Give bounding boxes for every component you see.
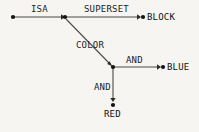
node-dot-red[interactable] [111,103,115,107]
node-label-blue: BLUE [167,63,189,72]
semantic-network-diagram: ISA SUPERSET COLOR AND AND BLOCK BLUE RE… [0,0,199,132]
arrowhead-and-blue [157,64,161,69]
edge-label-isa: ISA [31,5,48,14]
node-dot-source[interactable] [11,15,15,19]
node-dot-color-junction[interactable] [111,65,115,69]
node-dot-blue[interactable] [161,65,165,69]
node-dot-isa-junction[interactable] [63,15,67,19]
edge-label-and-red: AND [94,83,111,92]
node-dot-block[interactable] [141,15,145,19]
edge-label-superset: SUPERSET [84,5,129,14]
edge-label-and-blue: AND [126,56,143,65]
node-label-red: RED [104,110,121,119]
arrowhead-and-red [110,98,115,102]
arrowhead-superset [137,14,141,19]
node-label-block: BLOCK [147,13,175,22]
edge-label-color: COLOR [76,41,104,50]
